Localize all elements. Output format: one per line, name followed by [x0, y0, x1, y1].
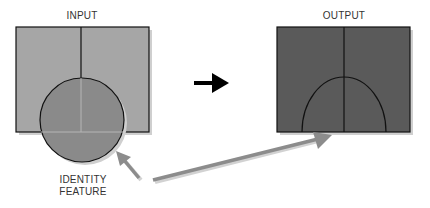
output-panel	[277, 27, 413, 135]
diagram-graphics	[0, 0, 430, 208]
identity-feature-diagram: INPUT OUTPUT IDENTITY FEATURE	[0, 0, 430, 208]
feature-pointer-arrow-icon	[116, 151, 141, 180]
input-panel	[16, 27, 152, 165]
feature-mapping-arrow-icon	[153, 132, 332, 182]
transform-arrow-icon	[194, 73, 229, 93]
identity-feature-circle	[40, 78, 124, 162]
